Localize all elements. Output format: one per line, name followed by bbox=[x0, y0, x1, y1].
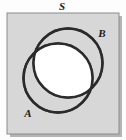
label-set-B: B bbox=[97, 27, 105, 39]
venn-diagram-figure: S A B bbox=[0, 0, 126, 140]
venn-diagram-canvas: S A B bbox=[0, 0, 126, 140]
label-universal-set-S: S bbox=[59, 0, 65, 12]
label-set-A: A bbox=[23, 107, 31, 119]
